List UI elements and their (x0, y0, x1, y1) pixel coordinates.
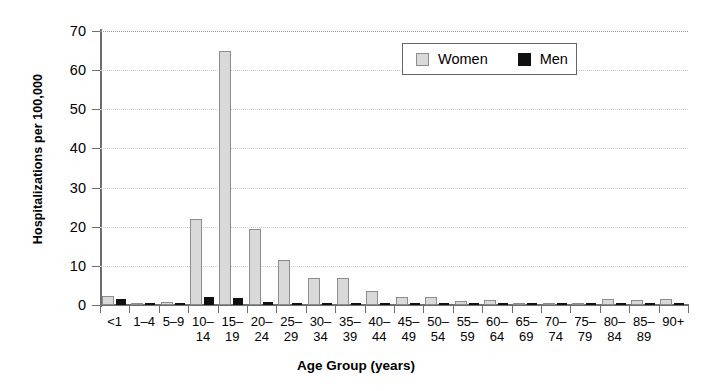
x-axis-tick (394, 306, 395, 313)
bar-men (557, 303, 567, 305)
bar-women (219, 51, 231, 305)
gridline (100, 148, 688, 149)
x-axis-tick (688, 306, 689, 313)
bar-chart: Hospitalizations per 100,000 01020304050… (0, 0, 712, 391)
y-axis-tick (92, 188, 100, 189)
bar-women (660, 299, 672, 305)
bar-women (513, 303, 525, 305)
bar-men (616, 303, 626, 305)
y-axis-tick-label: 20 (40, 220, 86, 234)
bar-women (366, 291, 378, 305)
bar-women (337, 278, 349, 305)
x-axis-tick (159, 306, 160, 313)
x-axis-tick (276, 306, 277, 313)
bar-men (674, 303, 684, 305)
y-axis-tick-label: 50 (40, 102, 86, 116)
y-axis-tick (92, 148, 100, 149)
x-axis-tick (541, 306, 542, 313)
legend-label-women: Women (438, 51, 488, 67)
y-axis-tick (92, 70, 100, 71)
bar-men (233, 298, 243, 305)
x-axis-tick (482, 306, 483, 313)
legend-entry-women: Women (416, 51, 488, 67)
bar-women (396, 297, 408, 305)
bar-women (484, 300, 496, 305)
y-axis-tick (92, 305, 100, 306)
y-axis-tick (92, 227, 100, 228)
bar-women (249, 229, 261, 305)
bar-women (602, 299, 614, 305)
bar-men (586, 303, 596, 305)
y-axis-tick-label: 70 (40, 24, 86, 38)
y-axis-tick (92, 109, 100, 110)
x-axis-tick (129, 306, 130, 313)
x-axis-tick (335, 306, 336, 313)
x-axis-tick (188, 306, 189, 313)
y-axis-tick-label: 30 (40, 181, 86, 195)
gridline (100, 188, 688, 189)
bar-men (351, 303, 361, 305)
y-axis-tick-label: 0 (40, 298, 86, 312)
plot-area (100, 31, 688, 305)
x-axis-tick (365, 306, 366, 313)
x-axis-tick-label: 90+ (655, 314, 691, 329)
bar-men (380, 303, 390, 305)
bar-men (322, 303, 332, 305)
bar-women (161, 302, 173, 305)
y-axis-tick (92, 266, 100, 267)
bar-women (572, 303, 584, 305)
y-axis-tick-label: 40 (40, 141, 86, 155)
bar-men (204, 297, 214, 305)
x-axis-tick (512, 306, 513, 313)
x-axis-tick (247, 306, 248, 313)
x-axis-tick (600, 306, 601, 313)
bar-men (645, 303, 655, 305)
bar-women (425, 297, 437, 305)
x-axis-title: Age Group (years) (0, 358, 712, 373)
x-axis-tick (218, 306, 219, 313)
bar-men (410, 303, 420, 305)
bar-men (439, 303, 449, 305)
bar-men (498, 303, 508, 305)
gridline (100, 227, 688, 228)
bar-men (116, 299, 126, 305)
y-axis-tick-label: 60 (40, 63, 86, 77)
gridline (100, 109, 688, 110)
bar-men (292, 303, 302, 305)
bar-women (102, 296, 114, 305)
bar-women (543, 303, 555, 305)
bar-men (527, 303, 537, 305)
chart-legend: Women Men (402, 43, 577, 75)
bar-women (131, 303, 143, 305)
bar-women (190, 219, 202, 305)
x-axis-tick (423, 306, 424, 313)
legend-entry-men: Men (518, 51, 568, 67)
bar-women (308, 278, 320, 305)
bar-women (631, 300, 643, 305)
y-axis-tick-label: 10 (40, 259, 86, 273)
bar-men (145, 303, 155, 305)
bar-women (455, 301, 467, 305)
bar-men (263, 302, 273, 305)
x-axis-tick (570, 306, 571, 313)
x-axis-tick (629, 306, 630, 313)
gridline (100, 31, 688, 32)
legend-swatch-women-icon (416, 53, 429, 66)
gridline (100, 70, 688, 71)
bar-men (175, 303, 185, 305)
legend-swatch-men-icon (518, 53, 531, 66)
legend-label-men: Men (540, 51, 568, 67)
gridline (100, 266, 688, 267)
x-axis-tick (100, 306, 101, 313)
x-axis-tick (659, 306, 660, 313)
x-axis-tick (306, 306, 307, 313)
bar-men (469, 303, 479, 305)
bar-women (278, 260, 290, 305)
y-axis-tick (92, 31, 100, 32)
x-axis-tick (453, 306, 454, 313)
